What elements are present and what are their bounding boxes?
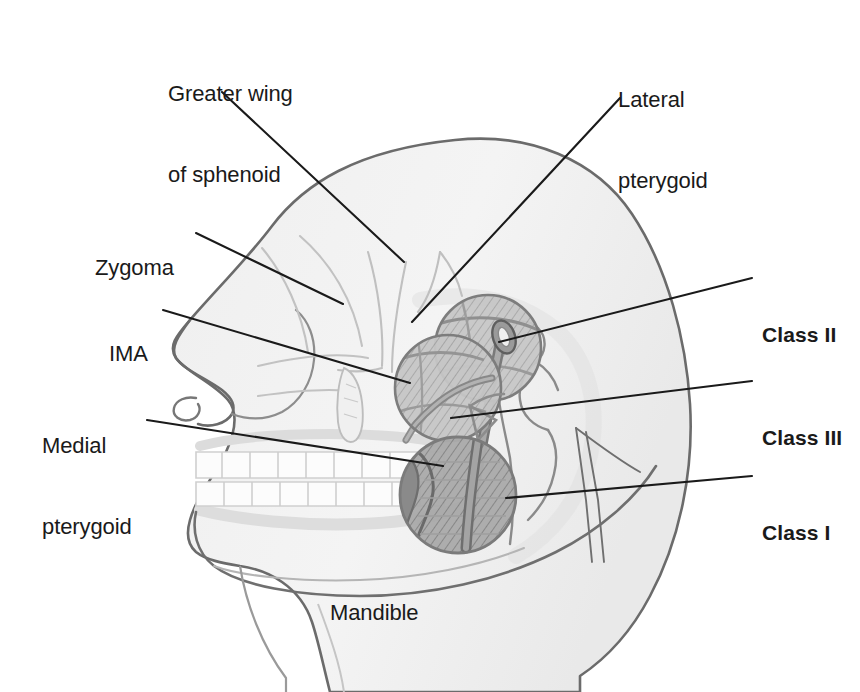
label-lateral-pterygoid-line-2: pterygoid bbox=[618, 167, 708, 194]
label-class-i: Class I bbox=[762, 465, 830, 600]
label-class-ii-line-1: Class II bbox=[762, 321, 836, 348]
ima-circle bbox=[395, 335, 501, 441]
label-zygoma-line-1: Zygoma bbox=[95, 254, 174, 281]
label-greater-wing-of-sphenoid-line-2: of sphenoid bbox=[168, 161, 293, 188]
nostril bbox=[174, 397, 200, 420]
label-lateral-pterygoid: Lateral pterygoid bbox=[618, 32, 708, 248]
label-mandible-line-1: Mandible bbox=[330, 599, 418, 626]
label-class-iii-line-1: Class III bbox=[762, 424, 842, 451]
label-medial-pterygoid: Medial pterygoid bbox=[42, 378, 132, 594]
label-greater-wing-of-sphenoid-line-1: Greater wing bbox=[168, 80, 293, 107]
label-medial-pterygoid-line-1: Medial bbox=[42, 432, 132, 459]
label-class-i-line-1: Class I bbox=[762, 519, 830, 546]
label-ima-line-1: IMA bbox=[109, 340, 148, 367]
label-lateral-pterygoid-line-1: Lateral bbox=[618, 86, 708, 113]
label-medial-pterygoid-line-2: pterygoid bbox=[42, 513, 132, 540]
anatomical-figure: Greater wing of sphenoid Lateral pterygo… bbox=[0, 0, 860, 692]
label-mandible: Mandible bbox=[330, 545, 418, 680]
label-greater-wing-of-sphenoid: Greater wing of sphenoid bbox=[168, 26, 293, 242]
